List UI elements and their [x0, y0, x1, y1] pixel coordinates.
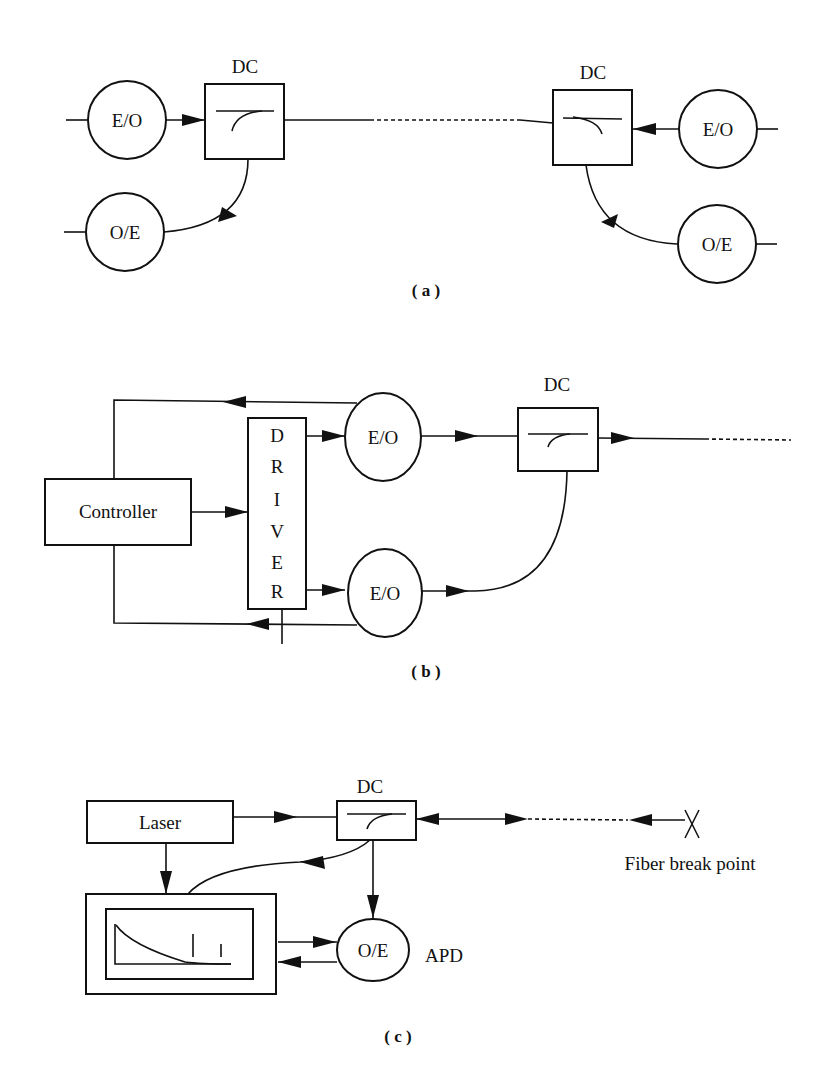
- svg-text:V: V: [270, 521, 284, 542]
- caption-c: ( c ): [384, 1027, 411, 1046]
- fiber-break-label: Fiber break point: [625, 853, 757, 874]
- caption-b: ( b ): [411, 662, 440, 681]
- arrow-right-icon: [225, 506, 248, 518]
- panel-b: Controller D R I V E R E/O E/O: [45, 374, 791, 681]
- directional-coupler-left: [205, 84, 284, 159]
- otdr-screen: [106, 909, 253, 979]
- eo-label: E/O: [703, 119, 734, 140]
- arrow-right-icon: [274, 811, 297, 823]
- arrow-left-icon: [629, 814, 652, 826]
- dc-label: DC: [544, 374, 570, 395]
- caption-a: ( a ): [412, 281, 440, 300]
- oe-label: O/E: [110, 222, 141, 243]
- arrow-right-icon: [322, 584, 345, 596]
- arrow-left-icon: [300, 856, 325, 869]
- arrow-down-icon: [160, 871, 172, 894]
- apd-label: APD: [425, 945, 463, 966]
- eo-label: E/O: [112, 110, 143, 131]
- panel-c: Laser DC Fiber break point: [86, 776, 756, 1046]
- controller-label: Controller: [79, 501, 158, 522]
- dc-label: DC: [580, 62, 606, 83]
- dc-label: DC: [232, 56, 258, 77]
- arrow-right-icon: [446, 585, 469, 597]
- arrow-left-icon: [223, 396, 246, 408]
- svg-text:R: R: [271, 581, 284, 602]
- arrow-right-icon: [455, 430, 478, 442]
- arrow-down-right-icon: [601, 214, 618, 228]
- svg-text:E: E: [271, 552, 283, 573]
- arrow-left-icon: [246, 618, 269, 630]
- arrow-left-icon: [633, 123, 656, 135]
- arrow-right-icon: [322, 430, 345, 442]
- dc-label: DC: [357, 776, 383, 797]
- arrow-left-icon: [278, 956, 301, 968]
- arrow-right-icon: [505, 813, 528, 825]
- panel-a: E/O DC O/E DC E/O O/E ( a ): [64, 56, 778, 300]
- svg-text:I: I: [274, 489, 280, 510]
- laser-label: Laser: [139, 812, 182, 833]
- svg-text:R: R: [271, 456, 284, 477]
- eo-label: E/O: [370, 583, 401, 604]
- fiber-optic-diagram: E/O DC O/E DC E/O O/E ( a ): [0, 0, 821, 1087]
- directional-coupler: [337, 801, 416, 840]
- arrow-right-icon: [182, 114, 205, 126]
- arrow-right-icon: [611, 432, 634, 444]
- arrow-right-icon: [313, 936, 336, 948]
- eo-label: E/O: [368, 427, 399, 448]
- directional-coupler-right: [553, 90, 632, 165]
- directional-coupler: [518, 408, 598, 471]
- fiber-break-marker: [685, 810, 699, 838]
- oe-label: O/E: [702, 234, 733, 255]
- svg-text:D: D: [270, 425, 284, 446]
- oe-label: O/E: [358, 940, 389, 961]
- arrow-down-icon: [367, 895, 379, 918]
- arrow-left-icon: [416, 813, 439, 825]
